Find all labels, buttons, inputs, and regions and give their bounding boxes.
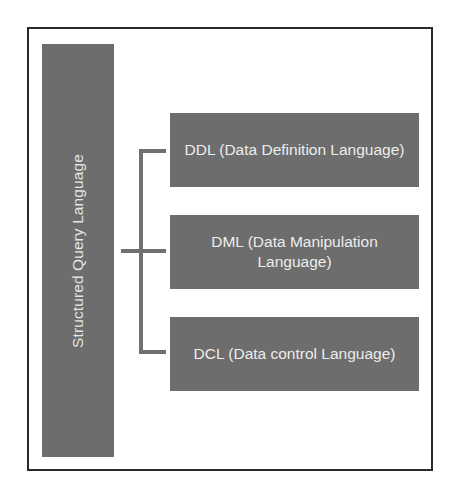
child-node-dml-label: DML (Data Manipulation Language) xyxy=(178,232,411,272)
connector-arm-dcl xyxy=(139,350,166,354)
connector-arm-dml xyxy=(139,249,166,253)
child-node-dcl: DCL (Data control Language) xyxy=(170,317,419,391)
connector-arm-ddl xyxy=(139,149,166,153)
child-node-dml: DML (Data Manipulation Language) xyxy=(170,215,419,289)
root-node-structured-query-language: Structured Query Language xyxy=(42,44,114,457)
root-node-label: Structured Query Language xyxy=(69,154,87,348)
child-node-ddl-label: DDL (Data Definition Language) xyxy=(185,140,405,160)
child-node-ddl: DDL (Data Definition Language) xyxy=(170,113,419,187)
child-node-dcl-label: DCL (Data control Language) xyxy=(194,344,396,364)
